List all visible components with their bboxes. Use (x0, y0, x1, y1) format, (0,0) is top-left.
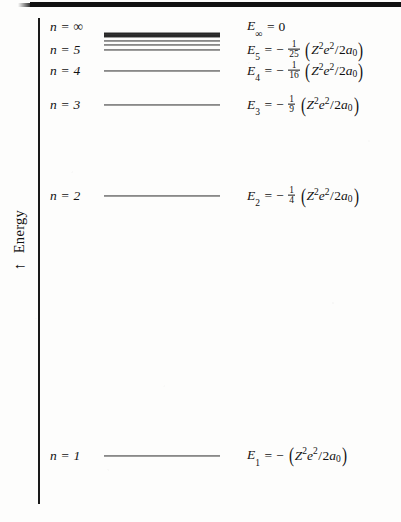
right-parenthesis: ) (342, 447, 347, 463)
level-label-n-∞: n = ∞ (50, 19, 83, 35)
subscript-zero: 0 (353, 48, 358, 58)
rydberg-group: (Z2e2/2a0) (304, 63, 364, 79)
prefactor-fraction: 125 (288, 39, 300, 60)
denominator-two: 2 (323, 448, 330, 464)
energy-symbol: E1 (247, 447, 261, 465)
energy-level-line-n-2 (104, 195, 220, 196)
energy-symbol-subscript: 1 (255, 458, 260, 468)
minus-sign: − (276, 97, 284, 113)
right-parenthesis: ) (358, 41, 363, 57)
equals-sign: = (265, 448, 273, 464)
equals-sign: = (265, 42, 273, 58)
exponent-Z: 2 (314, 96, 319, 106)
level-label-n-2: n = 2 (50, 188, 80, 204)
level-label-n-1: n = 1 (50, 448, 80, 464)
fraction-numerator: 1 (288, 185, 295, 195)
fraction-numerator: 1 (291, 60, 298, 70)
prefactor-fraction: 19 (288, 94, 295, 115)
subscript-zero: 0 (348, 103, 353, 113)
equals-sign: = (265, 63, 273, 79)
energy-formula-n-5: E5=−125(Z2e2/2a0) (247, 40, 364, 61)
symbol-a: a (341, 188, 348, 204)
energy-value-zero: 0 (279, 19, 286, 35)
energy-level-line-n-1 (104, 455, 220, 456)
denominator-two: 2 (339, 63, 346, 79)
exponent-Z: 2 (319, 62, 324, 72)
energy-symbol: E∞ (247, 18, 263, 36)
symbol-a: a (346, 63, 353, 79)
exponent-e: 2 (330, 62, 335, 72)
exponent-e: 2 (325, 187, 330, 197)
energy-formula-n-∞: E∞=0 (247, 18, 285, 36)
denominator-two: 2 (334, 97, 341, 113)
equals-sign: = (265, 97, 273, 113)
energy-formula-n-4: E4=−116(Z2e2/2a0) (247, 61, 364, 82)
symbol-a: a (346, 42, 353, 58)
denominator-two: 2 (334, 188, 341, 204)
energy-levels-layer: n = ∞E∞=0n = 5E5=−125(Z2e2/2a0)n = 4E4=−… (0, 0, 401, 522)
energy-level-diagram-figure: ↑ Energy n = ∞E∞=0n = 5E5=−125(Z2e2/2a0)… (0, 0, 401, 522)
exponent-Z: 2 (319, 41, 324, 51)
subscript-zero: 0 (353, 69, 358, 79)
rydberg-group: (Z2e2/2a0) (304, 42, 364, 58)
denominator-two: 2 (339, 42, 346, 58)
minus-sign: − (276, 448, 284, 464)
level-label-n-5: n = 5 (50, 42, 80, 58)
exponent-Z: 2 (302, 447, 307, 457)
fraction-denominator: 16 (288, 70, 300, 81)
exponent-e: 2 (313, 447, 318, 457)
continuum-band-line (104, 33, 220, 38)
energy-level-line-n-8 (104, 44, 220, 45)
equals-sign: = (265, 188, 273, 204)
minus-sign: − (276, 63, 284, 79)
level-label-n-4: n = 4 (50, 63, 80, 79)
left-parenthesis: ( (300, 96, 305, 112)
right-parenthesis: ) (354, 96, 359, 112)
symbol-a: a (329, 448, 336, 464)
energy-symbol-subscript: ∞ (255, 28, 262, 39)
fraction-denominator: 25 (288, 49, 300, 60)
minus-sign: − (276, 42, 284, 58)
exponent-Z: 2 (314, 187, 319, 197)
energy-symbol: E5 (247, 41, 261, 59)
rydberg-group: (Z2e2/2a0) (300, 97, 360, 113)
left-parenthesis: ( (300, 187, 305, 203)
energy-symbol: E2 (247, 187, 261, 205)
subscript-zero: 0 (336, 454, 341, 464)
fraction-numerator: 1 (291, 39, 298, 49)
energy-symbol-subscript: 3 (255, 107, 260, 117)
right-parenthesis: ) (358, 62, 363, 78)
fraction-denominator: 4 (288, 195, 295, 206)
symbol-Z: Z (311, 63, 319, 79)
symbol-Z: Z (307, 188, 315, 204)
right-parenthesis: ) (354, 187, 359, 203)
energy-symbol: E4 (247, 62, 261, 80)
minus-sign: − (276, 188, 284, 204)
prefactor-fraction: 116 (288, 60, 300, 81)
energy-formula-n-2: E2=−14(Z2e2/2a0) (247, 186, 360, 207)
rydberg-group: (Z2e2/2a0) (288, 448, 348, 464)
symbol-Z: Z (307, 97, 315, 113)
equals-sign: = (267, 19, 275, 35)
symbol-Z: Z (295, 448, 303, 464)
energy-level-line-n-4 (104, 70, 220, 71)
fraction-numerator: 1 (288, 94, 295, 104)
symbol-a: a (341, 97, 348, 113)
energy-formula-n-1: E1=−(Z2e2/2a0) (247, 447, 348, 465)
energy-level-line-n-3 (104, 104, 220, 105)
rydberg-group: (Z2e2/2a0) (300, 188, 360, 204)
level-label-n-3: n = 3 (50, 97, 80, 113)
prefactor-fraction: 14 (288, 185, 295, 206)
energy-symbol: E3 (247, 96, 261, 114)
left-parenthesis: ( (305, 62, 310, 78)
energy-symbol-subscript: 2 (255, 198, 260, 208)
subscript-zero: 0 (348, 194, 353, 204)
energy-symbol-subscript: 4 (255, 73, 260, 83)
energy-formula-n-3: E3=−19(Z2e2/2a0) (247, 95, 360, 116)
energy-level-line-n-5 (104, 49, 220, 50)
energy-level-line-n-9 (104, 40, 220, 41)
left-parenthesis: ( (289, 447, 294, 463)
exponent-e: 2 (330, 41, 335, 51)
exponent-e: 2 (325, 96, 330, 106)
symbol-Z: Z (311, 42, 319, 58)
